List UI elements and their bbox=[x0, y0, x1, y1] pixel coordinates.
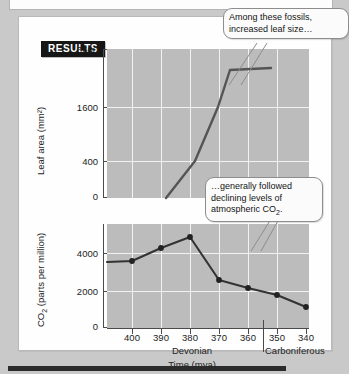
chart-co2-y-title: CO2 (parts per million) bbox=[35, 233, 48, 327]
x-tick-label-370: 370 bbox=[204, 332, 234, 343]
callout-leaf-size-leader bbox=[215, 41, 275, 91]
callout-co2-leader bbox=[245, 217, 295, 257]
y-tick-label-0: 0 bbox=[56, 191, 98, 202]
period-label-devonian: Devonian bbox=[147, 345, 237, 356]
y-axis-line bbox=[103, 49, 104, 198]
x-tick-label-350: 350 bbox=[262, 332, 292, 343]
callout-leaf-size: Among these fossils, increased leaf size… bbox=[223, 8, 349, 39]
callout-leaf-size-line1: Among these fossils, bbox=[229, 12, 343, 24]
callout-co2: …generally followed declining levels of … bbox=[205, 177, 323, 222]
co2-y-tick-label-4000: 4000 bbox=[56, 248, 98, 259]
leaf-area-line bbox=[107, 49, 309, 198]
x-axis-line bbox=[107, 328, 309, 329]
co2-y-tick-label-0: 0 bbox=[56, 321, 98, 332]
y-tick-label-1600: 1600 bbox=[56, 102, 98, 113]
chart-leaf-area-y-title: Leaf area (mm²) bbox=[35, 107, 46, 175]
x-tick-label-390: 390 bbox=[146, 332, 176, 343]
callout-co2-line1: …generally followed bbox=[211, 181, 317, 193]
y-tick-label-3600: 3600 bbox=[56, 44, 98, 55]
y-tick-label-400: 400 bbox=[56, 156, 98, 167]
x-tick-label-340: 340 bbox=[291, 332, 321, 343]
chart-leaf-area: Leaf area (mm²) 3600 1600 400 0 bbox=[19, 17, 331, 202]
callout-co2-line2: declining levels of bbox=[211, 193, 317, 205]
callout-co2-line3: atmospheric CO2. bbox=[211, 204, 317, 218]
callout-leaf-size-line2: increased leaf size… bbox=[229, 24, 343, 36]
co2-y-axis-line bbox=[103, 224, 104, 328]
page-bottom-bar bbox=[8, 366, 286, 371]
co2-y-tick-label-2000: 2000 bbox=[56, 286, 98, 297]
x-tick-label-380: 380 bbox=[175, 332, 205, 343]
results-panel: RESULTS Leaf area (mm²) 3600 1600 400 0 bbox=[18, 16, 332, 351]
x-tick-label-400: 400 bbox=[117, 332, 147, 343]
plot-area-leaf-area bbox=[107, 49, 309, 198]
period-label-carboniferous: Carboniferous bbox=[265, 345, 335, 356]
x-tick-label-360: 360 bbox=[233, 332, 263, 343]
